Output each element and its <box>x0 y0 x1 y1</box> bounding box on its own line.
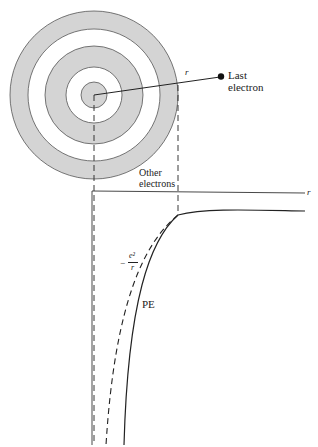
r-axis <box>92 191 305 193</box>
r-axis-label: r <box>307 187 311 197</box>
pe-curve <box>124 210 305 445</box>
coulomb-curve <box>106 215 178 445</box>
coulomb-label-numerator: e² <box>129 251 135 260</box>
coulomb-label-denominator: r <box>131 263 134 272</box>
last-electron-label-2: electron <box>228 82 263 92</box>
last-electron-label-1: Last <box>228 70 247 80</box>
radius-label: r <box>185 67 189 77</box>
pe-label: PE <box>142 299 155 309</box>
other-electrons-label-1: Other <box>139 168 162 178</box>
coulomb-label-sign: − <box>120 258 125 268</box>
last-electron-dot <box>218 73 224 79</box>
diagram-graphics <box>0 0 318 447</box>
shielding-diagram: r Last electron Other electrons r − e² r… <box>0 0 318 447</box>
other-electrons-label-2: electrons <box>139 179 175 189</box>
